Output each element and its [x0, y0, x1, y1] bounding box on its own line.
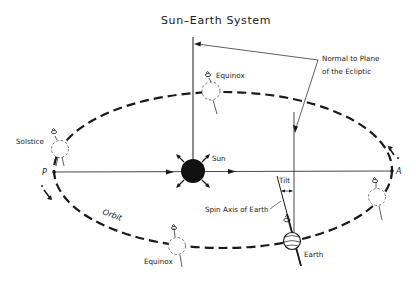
rotation-icon — [51, 130, 56, 133]
aphelion-point — [390, 169, 394, 173]
perihelion-label: P — [42, 168, 47, 177]
orbit-label: Orbit — [101, 207, 124, 223]
solstice-left-position — [51, 129, 68, 167]
sun-label: Sun — [212, 154, 226, 163]
aphelion-label: A — [395, 167, 401, 176]
normal-label-line2: of the Ecliptic — [322, 67, 371, 76]
tilt-arrow — [281, 190, 293, 193]
orbit-direction-arrow-left — [41, 185, 52, 200]
right-earth-position — [369, 178, 386, 221]
equinox-bottom-label: Equinox — [144, 257, 173, 266]
arrow-right-icon — [228, 169, 236, 174]
spin-axis-label: Spin Axis of Earth — [205, 205, 269, 214]
orbit-ellipse — [54, 92, 392, 248]
solstice-label: Solstice — [16, 137, 44, 146]
diagram-title: Sun–Earth System — [161, 14, 271, 27]
sun-icon — [176, 154, 210, 188]
arrow-left-icon — [166, 170, 174, 175]
normal-label-line1: Normal to Plane — [322, 54, 380, 63]
perihelion-point — [52, 170, 56, 174]
tilt-label: Tilt — [278, 176, 290, 185]
equinox-top-label: Equinox — [216, 71, 245, 80]
sun-earth-diagram: Sun–Earth System P A Sun Normal to Plane — [0, 0, 416, 281]
rotation-icon — [205, 73, 210, 76]
rotation-icon — [372, 179, 377, 182]
major-axis-line — [54, 171, 392, 172]
earth-icon — [284, 233, 301, 250]
earth-label: Earth — [304, 250, 323, 259]
